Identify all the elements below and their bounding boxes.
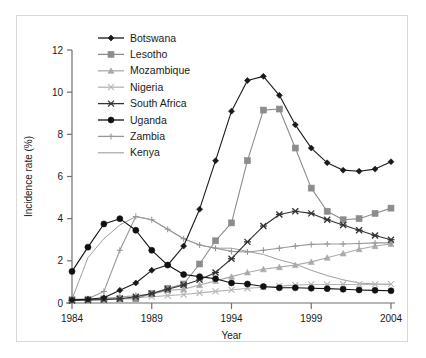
y-tick-label: 10 <box>52 87 64 98</box>
x-axis-title: Year <box>221 330 242 341</box>
data-point <box>340 286 346 292</box>
x-tick-label: 1989 <box>141 313 164 324</box>
data-point <box>260 284 266 290</box>
chart-figure: 02468101219841989199419992004YearInciden… <box>0 0 426 358</box>
data-point <box>229 108 235 114</box>
y-tick-label: 8 <box>57 129 63 140</box>
data-point <box>244 249 250 255</box>
data-point <box>69 268 75 274</box>
legend-item-botswana[interactable]: Botswana <box>98 32 176 44</box>
y-tick-label: 4 <box>57 213 63 224</box>
data-point <box>244 158 250 164</box>
data-point <box>356 216 362 222</box>
data-point <box>340 241 346 247</box>
y-tick-label: 6 <box>57 171 63 182</box>
legend-item-lesotho[interactable]: Lesotho <box>98 48 168 60</box>
data-point <box>388 288 394 294</box>
data-point <box>292 208 299 214</box>
data-point <box>324 286 330 292</box>
legend-label: Botswana <box>130 32 176 44</box>
data-point <box>292 145 298 151</box>
legend-item-uganda[interactable]: Uganda <box>98 114 167 126</box>
data-point <box>133 227 139 233</box>
data-point <box>213 276 219 282</box>
data-point <box>372 210 378 216</box>
legend-item-zambia[interactable]: Zambia <box>98 130 165 142</box>
legend-label: Nigeria <box>130 81 163 93</box>
series-line <box>72 109 391 300</box>
line-chart-svg: 02468101219841989199419992004YearInciden… <box>0 0 426 358</box>
data-point <box>372 233 379 239</box>
legend-marker <box>108 101 115 107</box>
data-point <box>356 168 362 174</box>
data-point <box>308 285 314 291</box>
data-point <box>213 238 219 244</box>
data-point <box>260 247 266 253</box>
data-point <box>308 185 314 191</box>
data-point <box>197 261 203 267</box>
data-point <box>228 256 235 262</box>
x-tick-label: 2004 <box>380 313 403 324</box>
data-point <box>372 166 378 172</box>
legend-label: Mozambique <box>130 64 190 76</box>
data-point <box>356 227 363 233</box>
data-point <box>356 241 362 247</box>
legend-item-kenya[interactable]: Kenya <box>98 146 160 158</box>
data-point <box>117 287 123 293</box>
data-point <box>340 217 346 223</box>
legend-marker <box>108 117 114 123</box>
x-tick-label: 1984 <box>61 313 84 324</box>
legend-label: Uganda <box>130 114 167 126</box>
data-point <box>133 214 139 220</box>
data-point <box>101 221 107 227</box>
data-point <box>197 206 203 212</box>
data-point <box>85 244 91 250</box>
data-point <box>260 107 266 113</box>
data-point <box>229 280 235 286</box>
data-point <box>324 241 330 247</box>
legend-label: South Africa <box>130 97 187 109</box>
data-point <box>324 217 331 223</box>
legend-label: Zambia <box>130 130 165 142</box>
data-point <box>276 211 283 217</box>
data-point <box>117 247 123 253</box>
data-point <box>165 262 171 268</box>
legend-item-nigeria[interactable]: Nigeria <box>98 81 163 93</box>
data-point <box>117 216 123 222</box>
y-axis-title: Incidence rate (%) <box>23 136 34 217</box>
legend-label: Kenya <box>130 146 160 158</box>
x-tick-label: 1994 <box>220 313 243 324</box>
data-point <box>292 243 298 249</box>
data-point <box>101 288 107 294</box>
x-tick-label: 1999 <box>300 313 323 324</box>
series-botswana <box>69 73 394 302</box>
data-point <box>324 208 330 214</box>
data-point <box>244 281 250 287</box>
data-point <box>356 287 362 293</box>
data-point <box>181 272 187 278</box>
legend-label: Lesotho <box>130 48 168 60</box>
data-point <box>340 167 346 173</box>
legend-marker <box>108 51 114 57</box>
data-point <box>149 247 155 253</box>
data-point <box>388 159 394 165</box>
data-point <box>292 285 298 291</box>
data-point <box>229 248 235 254</box>
data-point <box>260 223 267 229</box>
data-point <box>149 217 155 223</box>
data-point <box>197 242 203 248</box>
data-point <box>308 241 314 247</box>
data-point <box>276 285 282 291</box>
y-tick-label: 12 <box>52 45 64 56</box>
data-point <box>213 158 219 164</box>
data-point <box>197 274 203 280</box>
legend-item-south-africa[interactable]: South Africa <box>98 97 187 109</box>
legend-item-mozambique[interactable]: Mozambique <box>98 64 190 76</box>
data-point <box>244 78 250 84</box>
data-point <box>276 106 282 112</box>
data-point <box>244 239 251 245</box>
data-point <box>372 287 378 293</box>
legend-marker <box>108 35 114 41</box>
data-point <box>372 240 378 246</box>
y-tick-label: 0 <box>57 298 63 309</box>
